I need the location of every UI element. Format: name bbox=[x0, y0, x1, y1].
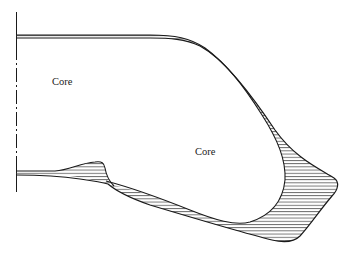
core-label-right: Core bbox=[195, 146, 215, 157]
cross-section-diagram: Core Core bbox=[0, 0, 350, 260]
core-label-left: Core bbox=[52, 76, 72, 87]
wall-section-hatched bbox=[16, 35, 338, 242]
fillet-bump-hatched bbox=[16, 162, 114, 186]
